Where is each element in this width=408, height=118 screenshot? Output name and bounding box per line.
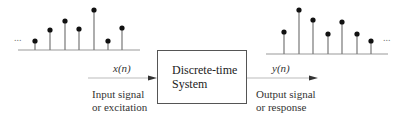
- input-sample-dot: [76, 26, 81, 31]
- system-label-line1: Discrete-time: [172, 63, 237, 77]
- input-sample-dot: [119, 25, 124, 30]
- output-sample-dot: [368, 38, 373, 43]
- output-arrowhead-icon: [309, 76, 318, 81]
- output-description-line1: Output signal: [256, 88, 316, 101]
- output-stem-plot: [281, 7, 373, 54]
- output-sample-dot: [325, 31, 330, 36]
- block-diagram: [0, 0, 408, 118]
- input-stem-plot: [32, 7, 124, 50]
- output-sample-dot: [281, 29, 286, 34]
- input-sample-dot: [91, 7, 96, 12]
- input-signal-label: x(n): [113, 62, 131, 75]
- input-sample-dot: [105, 38, 110, 43]
- output-sample-dot: [310, 17, 315, 22]
- output-description-line2: or response: [256, 101, 306, 114]
- output-sample-dot: [354, 31, 359, 36]
- input-sample-dot: [32, 38, 37, 43]
- output-ellipsis: ...: [383, 31, 391, 44]
- system-label-line2: System: [172, 77, 207, 91]
- input-sample-dot: [47, 27, 52, 32]
- output-sample-dot: [296, 7, 301, 12]
- input-description-line1: Input signal: [92, 88, 144, 101]
- output-sample-dot: [339, 19, 344, 24]
- input-ellipsis: ...: [14, 31, 22, 44]
- input-arrowhead-icon: [148, 76, 157, 81]
- input-description-line2: or excitation: [92, 101, 147, 114]
- output-signal-label: y(n): [272, 62, 290, 75]
- input-sample-dot: [62, 18, 67, 23]
